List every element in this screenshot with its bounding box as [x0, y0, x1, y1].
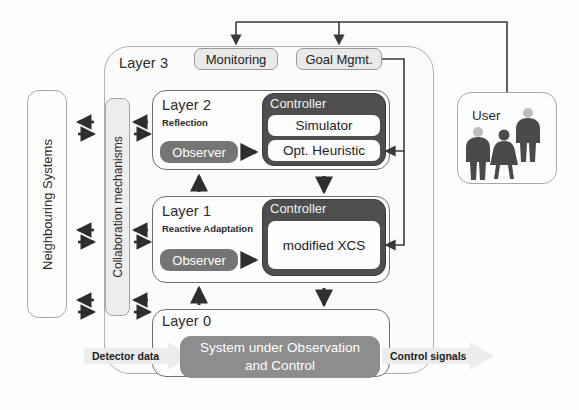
goal-mgmt-box[interactable]: Goal Mgmt. [296, 48, 382, 70]
simulator-box[interactable]: Simulator [268, 115, 380, 136]
layer2-observer-box[interactable]: Observer [160, 141, 238, 163]
layer1-title: Layer 1 [162, 203, 211, 219]
architecture-diagram: Layer 3 Monitoring Goal Mgmt. Neighbouri… [0, 0, 579, 410]
layer2-subtitle: Reflection [162, 117, 208, 128]
monitoring-box[interactable]: Monitoring [194, 48, 278, 70]
layer0-title: Layer 0 [162, 313, 211, 329]
collaboration-mechanisms-label: Collaboration mechanisms [105, 98, 130, 316]
layer3-title: Layer 3 [119, 55, 168, 71]
person-suit-icon-right [516, 108, 540, 162]
neighbouring-systems-label: Neighbouring Systems [27, 90, 67, 318]
layer1-controller-label: Controller [270, 201, 326, 216]
layer2-title: Layer 2 [162, 97, 211, 113]
layer1-observer-box[interactable]: Observer [160, 249, 238, 271]
layer2-controller-label: Controller [270, 96, 326, 111]
detector-data-label: Detector data [92, 350, 159, 362]
opt-heuristic-box[interactable]: Opt. Heuristic [268, 140, 380, 161]
layer1-subtitle: Reactive Adaptation [162, 223, 253, 234]
system-under-observation-and-control-box[interactable]: System under Observation and Control [180, 336, 380, 378]
system-line-1: System under Observation [200, 339, 360, 357]
person-suit-icon-left [466, 127, 490, 180]
person-dress-icon [490, 130, 518, 180]
system-line-2: and Control [200, 357, 360, 375]
user-figures-group [462, 104, 554, 180]
modified-xcs-box[interactable]: modified XCS [268, 221, 380, 269]
control-signals-label: Control signals [390, 350, 466, 362]
